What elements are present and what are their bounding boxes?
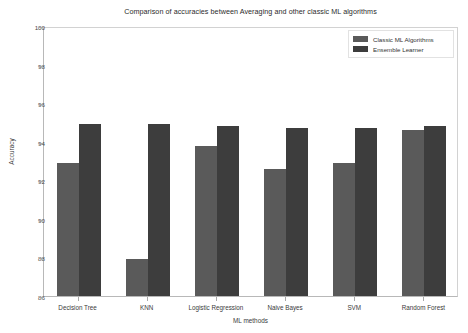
legend-item-label: Ensemble Learner xyxy=(373,46,424,53)
legend-item-label: Classic ML Algorithms xyxy=(373,36,434,43)
bar-group xyxy=(402,28,446,296)
plot-area xyxy=(43,27,458,297)
x-tick-label: Naive Bayes xyxy=(240,304,330,311)
x-tick-mark xyxy=(423,297,424,301)
bar xyxy=(333,163,355,296)
bar xyxy=(57,163,79,296)
x-tick-label: Logistic Regression xyxy=(171,304,261,311)
bar-group xyxy=(264,28,308,296)
legend-item: Classic ML Algorithms xyxy=(353,34,449,44)
x-axis-label: ML methods xyxy=(43,317,458,324)
chart-figure: Comparison of accuracies between Averagi… xyxy=(0,0,468,333)
legend-swatch-icon xyxy=(353,36,368,42)
bar-group xyxy=(195,28,239,296)
legend-item: Ensemble Learner xyxy=(353,44,449,54)
bar xyxy=(402,130,424,296)
x-tick-mark xyxy=(147,297,148,301)
x-tick-mark xyxy=(285,297,286,301)
y-tick-label: 98 xyxy=(5,62,45,69)
bar xyxy=(126,259,148,296)
y-tick-label: 88 xyxy=(5,255,45,262)
bar-group xyxy=(333,28,377,296)
chart-title: Comparison of accuracies between Averagi… xyxy=(43,7,458,16)
y-tick-label: 96 xyxy=(5,101,45,108)
bar xyxy=(286,128,308,296)
chart-legend: Classic ML Algorithms Ensemble Learner xyxy=(348,30,454,58)
y-tick-label: 100 xyxy=(5,24,45,31)
bars-layer xyxy=(44,28,457,296)
bar xyxy=(264,169,286,296)
bar xyxy=(195,146,217,296)
x-tick-mark xyxy=(354,297,355,301)
bar xyxy=(355,128,377,296)
x-tick-label: KNN xyxy=(102,304,192,311)
x-tick-label: Random Forest xyxy=(378,304,468,311)
bar xyxy=(424,126,446,296)
bar xyxy=(79,124,101,296)
bar xyxy=(148,124,170,296)
y-axis-label: Accuracy xyxy=(8,112,15,192)
y-tick-label: 86 xyxy=(5,294,45,301)
legend-swatch-icon xyxy=(353,46,368,52)
x-tick-mark xyxy=(78,297,79,301)
y-tick-label: 90 xyxy=(5,216,45,223)
y-tick-mark xyxy=(39,297,43,298)
x-tick-label: SVM xyxy=(309,304,399,311)
bar-group xyxy=(126,28,170,296)
bar-group xyxy=(57,28,101,296)
x-tick-label: Decision Tree xyxy=(33,304,123,311)
x-tick-mark xyxy=(216,297,217,301)
bar xyxy=(217,126,239,296)
